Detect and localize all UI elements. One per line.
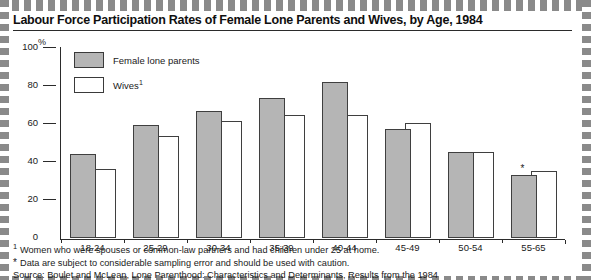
bar-annotation-asterisk-55-65: * xyxy=(521,165,525,173)
footnote-1: 1Women who were spouses or common-law pa… xyxy=(13,241,578,256)
bar-group-55-65: *55-65 xyxy=(502,36,565,239)
bar-group-45-49: 45-49 xyxy=(376,36,439,239)
footnotes: 1Women who were spouses or common-law pa… xyxy=(13,241,578,280)
y-axis-dash-60 xyxy=(43,123,56,124)
bar-group-35-39: 35-39 xyxy=(250,36,313,239)
bar-female-lone-parents-35-39 xyxy=(259,98,285,238)
chart-content: Labour Force Participation Rates of Fema… xyxy=(13,13,578,278)
y-axis-dash-20 xyxy=(43,199,56,200)
source-line: Source: Boulet and McLean, Lone Parentho… xyxy=(13,270,578,280)
bar-female-lone-parents-50-54 xyxy=(448,152,474,238)
bar-group-30-34: 30-34 xyxy=(187,36,250,239)
bar-group-18-24: 18-24 xyxy=(61,36,124,239)
footnote-2-marker: * xyxy=(13,257,20,268)
y-axis-tick-label-40: 40 xyxy=(8,155,38,167)
bar-group-40-44: 40-44 xyxy=(313,36,376,239)
footnote-2-text: Data are subject to considerable samplin… xyxy=(20,258,349,268)
y-axis-dash-80 xyxy=(43,85,56,86)
page-border-top xyxy=(0,0,591,11)
footnote-1-marker: 1 xyxy=(13,241,20,252)
y-axis-tick-40: 40 xyxy=(13,155,60,167)
bar-female-lone-parents-18-24 xyxy=(70,154,96,238)
bar-group-25-29: 25-29 xyxy=(124,36,187,239)
y-axis-tick-label-80: 80 xyxy=(8,79,38,91)
y-axis-tick-80: 80 xyxy=(13,79,60,91)
chart-page: Labour Force Participation Rates of Fema… xyxy=(0,0,591,280)
footnote-2: *Data are subject to considerable sampli… xyxy=(13,257,578,269)
bars-layer: 18-2425-2930-3435-3940-4445-4950-54*55-6… xyxy=(61,37,565,240)
y-axis-tick-100: 100 xyxy=(13,41,60,53)
plot-area: % 100 80 60 40 20 0 xyxy=(13,37,573,237)
y-axis-dash-40 xyxy=(43,161,56,162)
y-axis-tick-20: 20 xyxy=(13,193,60,205)
bar-group-50-54: 50-54 xyxy=(439,36,502,239)
bar-female-lone-parents-55-65 xyxy=(511,175,537,238)
y-axis-dash-100 xyxy=(43,47,56,48)
chart-title: Labour Force Participation Rates of Fema… xyxy=(13,13,578,27)
y-axis-tick-label-60: 60 xyxy=(8,117,38,129)
y-axis-tick-label-100: 100 xyxy=(8,41,38,53)
y-axis-tick-60: 60 xyxy=(13,117,60,129)
bar-female-lone-parents-40-44 xyxy=(322,82,348,238)
bar-female-lone-parents-25-29 xyxy=(133,125,159,238)
bar-female-lone-parents-45-49 xyxy=(385,129,411,238)
footnote-1-text: Women who were spouses or common-law par… xyxy=(20,245,379,255)
page-border-right xyxy=(582,0,591,280)
bar-female-lone-parents-30-34 xyxy=(196,111,222,238)
title-divider xyxy=(13,30,572,31)
y-axis-tick-label-20: 20 xyxy=(8,193,38,205)
